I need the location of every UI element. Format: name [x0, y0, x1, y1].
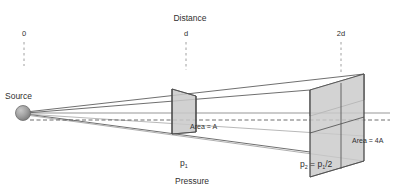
diagram-canvas: Distance 0 d 2d [0, 0, 398, 194]
source-sphere [16, 106, 31, 121]
tick-label-2d: 2d [337, 29, 345, 38]
area-near-label: Area = A [190, 123, 217, 130]
acoustic-inverse-square-diagram: Distance 0 d 2d [0, 0, 398, 194]
axis-title-pressure: Pressure [175, 176, 209, 186]
axis-title-distance: Distance [173, 13, 206, 23]
pressure-equals: = [308, 159, 318, 169]
area-far-label: Area = 4A [352, 137, 384, 144]
pressure-near-label: p1 [180, 158, 188, 169]
tick-label-0: 0 [22, 29, 26, 38]
pressure-near-sub: 1 [185, 163, 188, 169]
pressure-far-eq-tail: /2 [325, 159, 332, 169]
tick-label-d: d [184, 29, 188, 38]
source-label: Source [5, 91, 32, 101]
